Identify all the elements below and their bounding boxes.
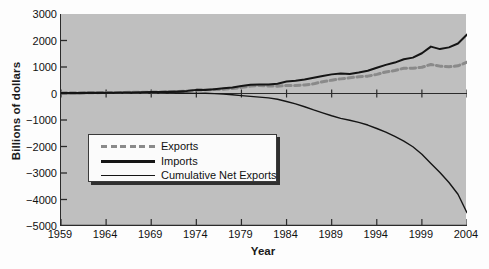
y-tick-label: −2000 <box>5 141 57 153</box>
legend-entry-cumulative-net-exports: Cumulative Net Exports <box>89 167 276 183</box>
y-tick-label: −1000 <box>5 114 57 126</box>
imports-line-swatch-icon <box>99 156 157 166</box>
legend-label-imports: Imports <box>161 155 198 167</box>
x-axis-title: Year <box>60 245 466 257</box>
legend-label-exports: Exports <box>161 140 198 152</box>
cumulative-net-exports-line-swatch-icon <box>99 170 157 180</box>
y-tick-label: −3000 <box>5 167 57 179</box>
plot-area <box>60 14 466 226</box>
legend-entry-exports: Exports <box>89 138 276 154</box>
x-tick-label: 2004 <box>436 228 489 240</box>
y-tick-label: −4000 <box>5 194 57 206</box>
plot-svg <box>61 14 467 226</box>
y-tick-label: 2000 <box>5 35 57 47</box>
exports-line-swatch-icon <box>99 141 157 151</box>
chart-figure: Billions of dollars 3000200010000−1000−2… <box>0 0 489 269</box>
series-line-imports <box>61 35 467 93</box>
chart-legend: Exports Imports Cumulative Net Exports <box>88 134 277 182</box>
y-tick-label: 1000 <box>5 61 57 73</box>
series-line-exports <box>61 62 467 93</box>
y-tick-label: 3000 <box>5 8 57 20</box>
y-tick-label: 0 <box>5 88 57 100</box>
legend-label-cumulative-net-exports: Cumulative Net Exports <box>161 169 277 181</box>
